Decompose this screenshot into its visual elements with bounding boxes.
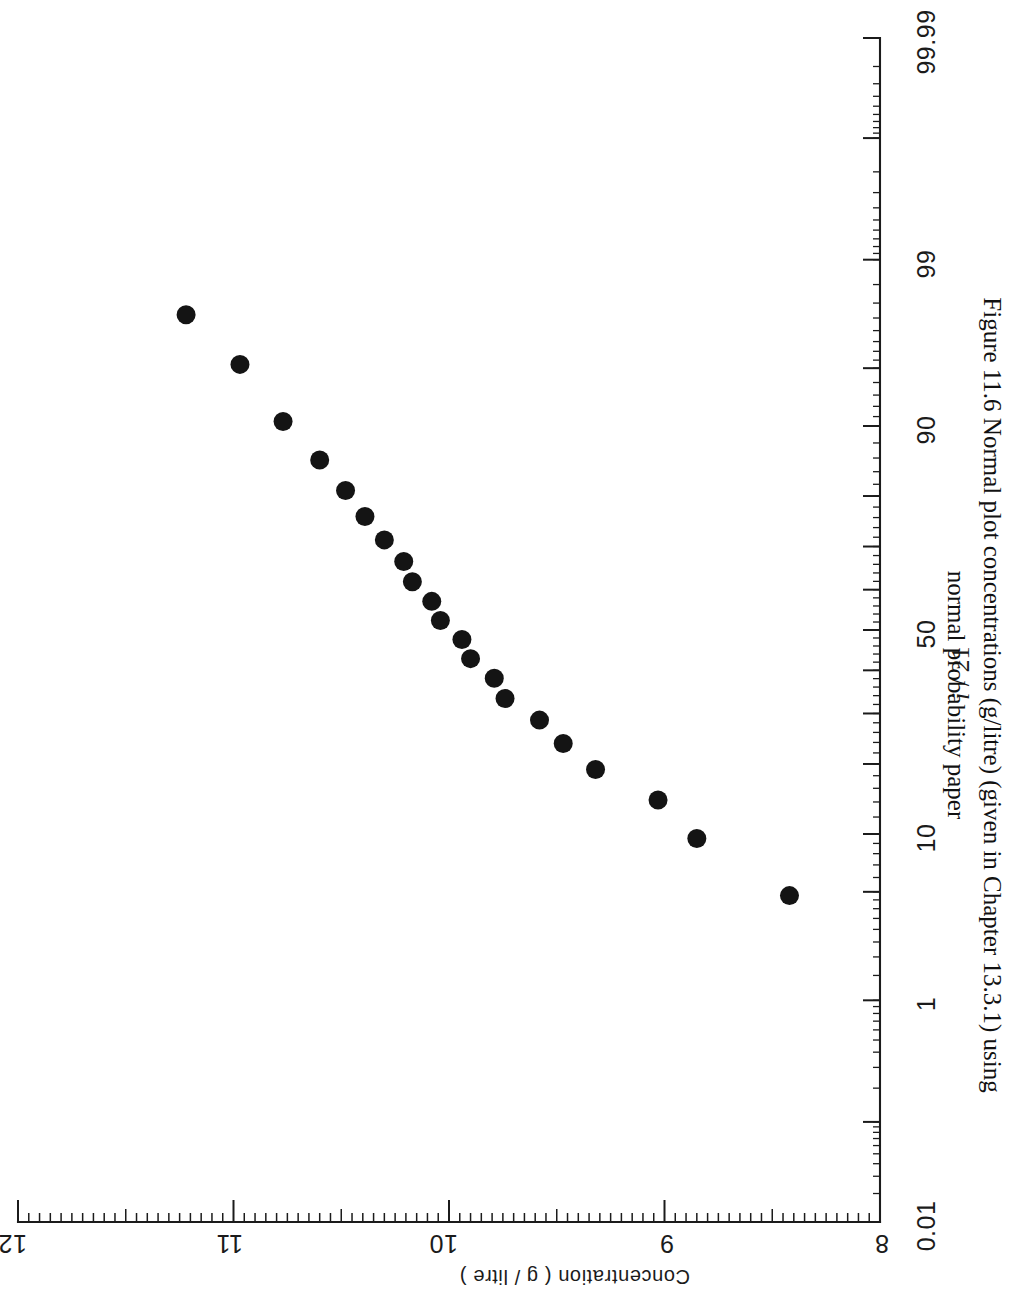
probability-tick-label: 90	[912, 416, 941, 445]
data-point	[496, 689, 515, 708]
data-point	[230, 355, 249, 374]
probability-tick-label: 10	[912, 824, 941, 853]
data-point	[554, 734, 573, 753]
data-point	[394, 552, 413, 571]
data-point	[431, 611, 450, 630]
data-point	[310, 451, 329, 470]
figure-caption: Figure 11.6 Normal plot concentrations (…	[939, 120, 1010, 1270]
data-point	[274, 412, 293, 431]
data-point	[649, 790, 668, 809]
concentration-tick-label: 12	[0, 1229, 27, 1258]
data-point	[422, 592, 441, 611]
probability-tick-label: 1	[912, 997, 941, 1011]
figure-root: 99.999990501010.01 12111098 i / 21 Conce…	[0, 0, 1016, 1296]
data-point	[687, 829, 706, 848]
data-point	[177, 305, 196, 324]
data-point	[461, 649, 480, 668]
concentration-axis-ticks	[18, 1200, 880, 1222]
figure-caption-line-1: Figure 11.6 Normal plot concentrations (…	[975, 120, 1011, 1270]
concentration-tick-label: 8	[875, 1229, 889, 1258]
probability-tick-label: 99	[912, 249, 941, 278]
plot-canvas	[0, 0, 1016, 1296]
concentration-tick-label: 11	[216, 1229, 243, 1258]
data-point	[530, 711, 549, 730]
data-point	[336, 481, 355, 500]
data-point	[485, 669, 504, 688]
probability-axis-ticks	[863, 38, 880, 1222]
data-point	[403, 572, 422, 591]
probability-tick-label: 0.01	[912, 1201, 941, 1252]
data-point	[780, 886, 799, 905]
probability-tick-label: 99.99	[912, 9, 941, 74]
data-point	[355, 507, 374, 526]
data-point	[586, 760, 605, 779]
data-point	[375, 530, 394, 549]
concentration-tick-label: 9	[659, 1229, 673, 1258]
data-point	[452, 630, 471, 649]
probability-tick-label: 50	[912, 620, 941, 649]
concentration-axis-title: Concentration ( g / litre )	[459, 1265, 690, 1288]
concentration-tick-label: 10	[429, 1229, 458, 1258]
normal-probability-plot	[0, 0, 1016, 1296]
figure-caption-line-2: normal probability paper	[939, 120, 975, 1270]
data-points-layer	[177, 305, 799, 905]
